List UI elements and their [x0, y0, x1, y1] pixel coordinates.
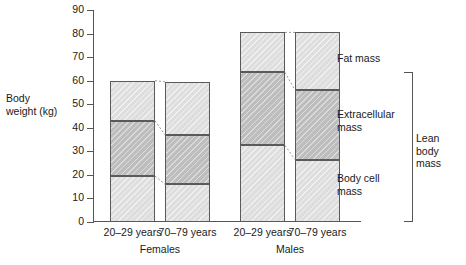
- bar-segment-extracellular-mass: [295, 90, 340, 159]
- lean-body-mass-bracket: [404, 72, 413, 222]
- legend-label-lean-body-mass-line2: mass: [416, 157, 464, 170]
- legend-label-lean-body-mass-line1: Lean body: [416, 132, 464, 157]
- x-axis-age-label: 70–79 years: [282, 226, 354, 238]
- bar-segment-body-cell-mass: [295, 160, 340, 222]
- x-axis-age-label: 70–79 years: [152, 226, 224, 238]
- y-tick-label: 40: [58, 121, 84, 133]
- stacked-bar: [165, 82, 210, 222]
- y-tick-label: 0: [58, 215, 84, 227]
- y-tick-mark: [87, 104, 94, 105]
- bar-segment-extracellular-mass: [240, 72, 285, 145]
- legend-label-body-cell-mass-line1: Body cell: [337, 172, 399, 185]
- y-tick-mark: [87, 81, 94, 82]
- legend-label-fat-mass: Fat mass: [337, 52, 380, 65]
- bar-segment-fat-mass: [110, 81, 155, 121]
- legend-label-extracellular-mass-line1: Extracellular: [337, 108, 407, 121]
- bar-segment-fat-mass: [165, 82, 210, 135]
- y-tick-mark: [87, 151, 94, 152]
- bar-segment-fat-mass: [240, 32, 285, 72]
- y-tick-mark: [87, 57, 94, 58]
- stacked-bar: [295, 32, 340, 222]
- legend-label-lean-body-mass: Lean body mass: [416, 132, 464, 170]
- y-tick-label: 10: [58, 191, 84, 203]
- plot-area: [94, 10, 362, 222]
- bar-segment-extracellular-mass: [165, 135, 210, 184]
- y-tick-label: 20: [58, 168, 84, 180]
- y-tick-label: 80: [58, 27, 84, 39]
- legend-label-body-cell-mass: Body cell mass: [337, 172, 399, 197]
- legend-label-extracellular-mass: Extracellular mass: [337, 108, 407, 133]
- y-tick-mark: [87, 175, 94, 176]
- y-tick-label: 60: [58, 74, 84, 86]
- legend-label-body-cell-mass-line2: mass: [337, 185, 399, 198]
- y-tick-label: 90: [58, 3, 84, 15]
- x-axis-group-label: Males: [250, 243, 330, 255]
- bar-segment-extracellular-mass: [110, 121, 155, 176]
- y-tick-mark: [87, 34, 94, 35]
- stacked-bar: [110, 81, 155, 222]
- bar-segment-body-cell-mass: [240, 145, 285, 222]
- y-tick-mark: [87, 198, 94, 199]
- y-tick-mark: [87, 10, 94, 11]
- bar-segment-fat-mass: [295, 32, 340, 90]
- y-tick-label: 30: [58, 144, 84, 156]
- bar-segment-body-cell-mass: [165, 184, 210, 222]
- chart-container: Body weight (kg) 9080706050403020100 20–…: [0, 0, 466, 265]
- y-tick-mark: [87, 222, 94, 223]
- y-tick-label: 50: [58, 97, 84, 109]
- legend-label-extracellular-mass-line2: mass: [337, 121, 407, 134]
- stacked-bar: [240, 32, 285, 222]
- x-axis-group-label: Females: [120, 243, 200, 255]
- bar-segment-body-cell-mass: [110, 176, 155, 222]
- y-tick-mark: [87, 128, 94, 129]
- y-tick-label: 70: [58, 50, 84, 62]
